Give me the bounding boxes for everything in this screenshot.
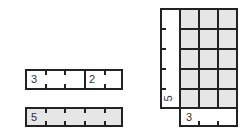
- tick: [45, 84, 47, 88]
- tick: [84, 121, 86, 125]
- split-bar-divider: [84, 71, 86, 88]
- tick: [104, 84, 106, 88]
- tick: [64, 109, 66, 113]
- tick: [84, 109, 86, 113]
- tick: [104, 109, 106, 113]
- tick: [162, 68, 166, 70]
- grid-line: [198, 10, 200, 107]
- grid-line: [181, 48, 236, 50]
- split-bar: 3 2: [25, 69, 123, 90]
- row-label-column: 5: [160, 8, 181, 109]
- tick: [162, 88, 166, 90]
- whole-bar: 5: [25, 107, 123, 127]
- tick: [104, 121, 106, 125]
- tick: [64, 71, 66, 75]
- tick: [162, 48, 166, 50]
- tick: [198, 121, 200, 125]
- tick: [45, 71, 47, 75]
- tick: [45, 121, 47, 125]
- whole-bar-label: 5: [31, 112, 37, 123]
- row-label: 5: [163, 95, 174, 101]
- tick: [217, 121, 219, 125]
- tick: [104, 71, 106, 75]
- tick: [45, 109, 47, 113]
- area-model: 5 3: [160, 8, 238, 128]
- grid-line: [181, 88, 236, 90]
- split-bar-right-label: 2: [89, 74, 95, 85]
- split-bar-left-label: 3: [31, 74, 37, 85]
- grid-line: [181, 28, 236, 30]
- tick: [162, 28, 166, 30]
- col-label-row: 3: [179, 107, 238, 127]
- tick: [64, 121, 66, 125]
- col-label: 3: [186, 112, 192, 123]
- grid-line: [217, 10, 219, 107]
- area-grid: [179, 8, 238, 109]
- grid-line: [181, 68, 236, 70]
- tick: [64, 84, 66, 88]
